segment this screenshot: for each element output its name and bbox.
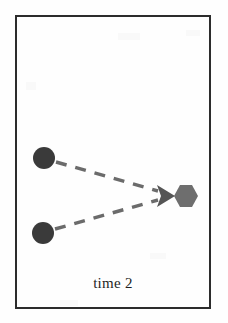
agent-circle-bottom: [32, 222, 54, 244]
figure-caption: time 2: [15, 275, 211, 292]
trajectory-line-bottom: [55, 200, 158, 229]
figure-panel: time 2: [0, 0, 228, 323]
agent-circle-top: [33, 147, 55, 169]
target-hexagon: [174, 185, 198, 207]
convergence-arrowhead-icon: [157, 185, 175, 207]
trajectory-line-top: [56, 162, 158, 191]
